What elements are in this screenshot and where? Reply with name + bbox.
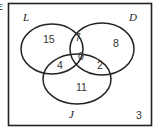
set-d-label: D: [128, 11, 137, 23]
set-j-label: J: [69, 108, 75, 120]
region-l-only: 15: [43, 33, 55, 45]
region-all-three: 0: [78, 50, 84, 62]
set-l-circle: [21, 24, 83, 74]
set-l-label: L: [22, 11, 29, 23]
region-d-only: 8: [113, 37, 119, 49]
region-outside: 3: [136, 109, 142, 121]
universal-set-symbol: ε: [0, 0, 3, 13]
region-l-and-j: 4: [57, 59, 63, 71]
venn-diagram: ε L D J 15 7 8 4 0 2 11 3: [0, 0, 154, 129]
region-j-only: 11: [76, 81, 87, 93]
region-l-and-d: 7: [75, 31, 81, 43]
region-d-and-j: 2: [97, 59, 103, 71]
